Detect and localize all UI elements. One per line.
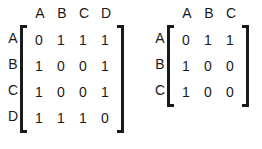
matrix-cell: 1: [94, 53, 116, 79]
matrix-row: 0 1 1: [175, 27, 241, 53]
row-label: B: [153, 51, 167, 77]
matrix-cell: 0: [197, 79, 219, 105]
matrix-cell: 1: [175, 53, 197, 79]
matrix-cell: 1: [72, 105, 94, 131]
left-bracket-icon: [167, 25, 174, 107]
matrix-row: 1 1 1 0: [28, 105, 116, 131]
matrix-cell: 0: [72, 53, 94, 79]
bracketed-grid: 0 1 1 1 1 0 0 1 1 0 0 1: [20, 25, 124, 133]
right-bracket-icon: [117, 25, 124, 133]
row-label: B: [6, 51, 20, 77]
matrix-cell: 0: [28, 27, 50, 53]
row-label-column: A B C: [153, 6, 167, 103]
matrix-row: 1 0 0: [175, 79, 241, 105]
matrix-cell: 1: [197, 27, 219, 53]
column-label: C: [73, 6, 95, 21]
matrix-cell: 0: [219, 53, 241, 79]
matrix-cell: 0: [219, 79, 241, 105]
matrix-cell: 0: [72, 79, 94, 105]
adjacency-matrix-4x4: A B C D A B C D 0 1 1 1: [6, 6, 124, 133]
matrix-cell: 1: [94, 79, 116, 105]
matrix-cell: 1: [28, 105, 50, 131]
bracketed-grid: 0 1 1 1 0 0 1 0 0: [167, 25, 249, 107]
row-label: C: [6, 77, 20, 103]
row-label: A: [6, 25, 20, 51]
row-label-column: A B C D: [6, 6, 20, 129]
matrix-cell: 1: [50, 27, 72, 53]
matrix-cell: 1: [28, 53, 50, 79]
matrix-cell: 1: [50, 105, 72, 131]
matrix-cell: 0: [50, 79, 72, 105]
matrix-cell: 0: [197, 53, 219, 79]
column-label: B: [198, 6, 220, 21]
row-label: C: [153, 77, 167, 103]
matrix-cell: 0: [175, 27, 197, 53]
matrix-cell: 0: [50, 53, 72, 79]
column-label-row: A B C: [167, 6, 249, 25]
matrix-body: A B C 0 1 1 1 0 0: [167, 6, 249, 107]
row-label: A: [153, 25, 167, 51]
matrix-cell: 1: [219, 27, 241, 53]
adjacency-matrix-3x3: A B C A B C 0 1 1 1: [153, 6, 249, 107]
row-label: D: [6, 103, 20, 129]
matrix-cells: 0 1 1 1 0 0 1 0 0: [174, 25, 242, 107]
matrix-body: A B C D 0 1 1 1 1 0 0: [20, 6, 124, 133]
matrix-cell: 0: [94, 105, 116, 131]
left-bracket-icon: [20, 25, 27, 133]
matrix-cells: 0 1 1 1 1 0 0 1 1 0 0 1: [27, 25, 117, 133]
matrix-cell: 1: [28, 79, 50, 105]
column-label: C: [220, 6, 242, 21]
right-bracket-icon: [242, 25, 249, 107]
matrix-cell: 1: [94, 27, 116, 53]
column-label: B: [51, 6, 73, 21]
column-label: D: [95, 6, 117, 21]
matrix-cell: 1: [175, 79, 197, 105]
matrix-cell: 1: [72, 27, 94, 53]
column-label: A: [29, 6, 51, 21]
matrix-row: 1 0 0 1: [28, 79, 116, 105]
column-label: A: [176, 6, 198, 21]
matrix-row: 1 0 0 1: [28, 53, 116, 79]
column-label-row: A B C D: [20, 6, 124, 25]
figure-canvas: A B C D A B C D 0 1 1 1: [0, 0, 262, 149]
matrix-row: 1 0 0: [175, 53, 241, 79]
matrix-row: 0 1 1 1: [28, 27, 116, 53]
